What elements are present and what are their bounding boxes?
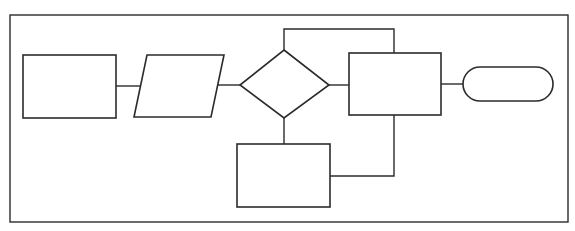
node-process-main	[349, 53, 441, 115]
node-process-start	[23, 55, 116, 118]
edge-bottom-loop	[330, 115, 394, 176]
input-output-parallelogram	[134, 55, 224, 117]
terminator-pill	[463, 67, 553, 101]
flowchart-diagram	[0, 0, 575, 231]
process-start-box	[23, 55, 116, 118]
edge-top-loop	[284, 29, 394, 53]
process-main-box	[349, 53, 441, 115]
node-process-loop	[237, 144, 330, 207]
node-terminator	[463, 67, 553, 101]
node-decision	[240, 50, 329, 118]
decision-diamond	[240, 50, 329, 118]
process-loop-box	[237, 144, 330, 207]
node-input-output	[134, 55, 224, 117]
